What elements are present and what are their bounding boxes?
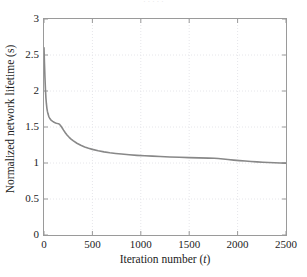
grid-lines-horizontal [44, 55, 286, 199]
y-axis-tick-labels: 00.511.522.53 [2, 0, 39, 260]
x-tick-label: 500 [84, 239, 101, 250]
y-tick-label: 2.5 [5, 49, 39, 60]
chart-figure: · · · · · Normalized network lifetime (s… [0, 0, 307, 277]
y-tick-label: 2 [5, 85, 39, 96]
data-series-line-0 [44, 48, 286, 163]
x-axis-tick-labels: 05001000150020002500 [0, 239, 307, 253]
y-tick-label: 3 [5, 13, 39, 24]
x-axis-label: Iteration number (t) [43, 253, 287, 265]
clipped-caption-row: · · · · · [0, 0, 307, 7]
x-tick-label: 2500 [275, 239, 297, 250]
y-tick-label: 0.5 [5, 193, 39, 204]
x-tick-label: 1000 [130, 239, 152, 250]
plot-area [43, 18, 287, 236]
y-tick-label: 1.5 [5, 121, 39, 132]
data-series-group [44, 48, 286, 163]
x-tick-label: 1500 [178, 239, 200, 250]
x-tick-label: 0 [41, 239, 47, 250]
y-tick-label: 1 [5, 157, 39, 168]
plot-svg [44, 19, 286, 235]
x-tick-label: 2000 [227, 239, 249, 250]
